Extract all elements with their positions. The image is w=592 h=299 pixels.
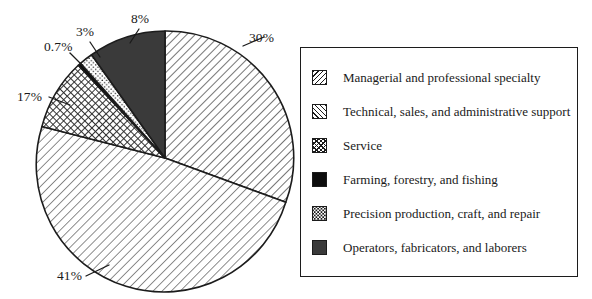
legend-label-farming: Farming, forestry, and fishing [343, 173, 498, 186]
pie-label-farming: 0.7% [44, 40, 73, 54]
legend-item-managerial[interactable]: Managerial and professional specialty [301, 62, 577, 92]
chart-legend: Managerial and professional specialty Te… [300, 47, 578, 277]
pie-label-operators: 8% [131, 12, 149, 26]
legend-item-precision[interactable]: Precision production, craft, and repair [301, 198, 577, 228]
legend-label-service: Service [343, 139, 382, 152]
legend-item-farming[interactable]: Farming, forestry, and fishing [301, 164, 577, 194]
pie-label-technical: 41% [57, 269, 82, 283]
pie-label-service: 17% [17, 90, 42, 104]
legend-swatch-precision-icon [312, 206, 327, 221]
pie-chart-figure: 30% 41% 17% 0.7% 3% 8% Managerial and pr… [0, 0, 592, 299]
legend-swatch-technical-icon [312, 104, 327, 119]
legend-item-technical[interactable]: Technical, sales, and administrative sup… [301, 96, 577, 126]
legend-swatch-service-icon [312, 138, 327, 153]
legend-label-operators: Operators, fabricators, and laborers [343, 241, 527, 254]
legend-swatch-managerial-icon [312, 70, 327, 85]
legend-swatch-farming-icon [312, 172, 327, 187]
pie-label-precision: 3% [76, 25, 94, 39]
legend-label-technical: Technical, sales, and administrative sup… [343, 105, 570, 118]
legend-item-operators[interactable]: Operators, fabricators, and laborers [301, 232, 577, 262]
pie-chart-plot-area: 30% 41% 17% 0.7% 3% 8% [0, 0, 300, 299]
pie-label-managerial: 30% [249, 31, 274, 45]
legend-item-list: Managerial and professional specialty Te… [301, 48, 577, 276]
legend-item-service[interactable]: Service [301, 130, 577, 160]
leader-line-farming [70, 53, 83, 66]
legend-swatch-operators-icon [312, 240, 327, 255]
legend-label-precision: Precision production, craft, and repair [343, 207, 540, 220]
legend-label-managerial: Managerial and professional specialty [343, 71, 540, 84]
